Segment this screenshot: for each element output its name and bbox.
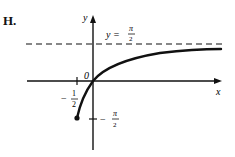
y-tick-label-sign: − xyxy=(100,114,106,125)
function-curve xyxy=(77,49,221,118)
y-axis-label: y xyxy=(82,12,88,23)
origin-label: 0 xyxy=(84,70,89,81)
graph: y x 0 y = π 2 − 1 2 − π 2 xyxy=(0,0,235,157)
x-tick-label-sign: − xyxy=(61,93,67,104)
asymptote-label-lhs: y = xyxy=(105,29,120,40)
y-axis-arrow-icon xyxy=(90,15,96,23)
y-tick-label-den: 2 xyxy=(113,121,117,129)
y-tick-label-num: π xyxy=(113,109,118,118)
x-tick-label-den: 2 xyxy=(72,100,76,109)
x-axis-label: x xyxy=(215,86,221,97)
x-tick-label-num: 1 xyxy=(72,89,76,98)
asymptote-label-num: π xyxy=(129,24,134,33)
asymptote-label-den: 2 xyxy=(129,35,133,43)
start-point-dot xyxy=(74,115,79,120)
x-axis-arrow-icon xyxy=(214,78,222,84)
